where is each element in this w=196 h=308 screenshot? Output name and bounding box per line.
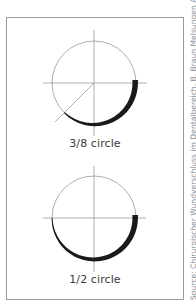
needle-arc [64, 80, 138, 126]
needle-curvature-diagrams [0, 0, 196, 308]
source-credit: Source: Chirurgischer Wundverschluss im … [189, 0, 196, 300]
diagram-1-2-circle [43, 166, 146, 272]
angle-indicator-line [55, 83, 94, 122]
label-1-2-circle: 1/2 circle [6, 273, 184, 286]
needle-arc [52, 215, 138, 261]
label-3-8-circle: 3/8 circle [6, 137, 184, 150]
diagram-3-8-circle [43, 30, 147, 136]
